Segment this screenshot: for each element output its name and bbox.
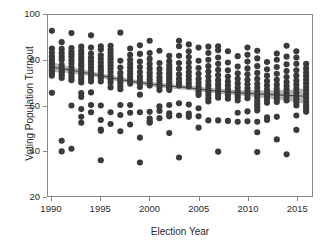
data-point bbox=[117, 86, 123, 92]
data-point bbox=[98, 128, 104, 134]
data-point bbox=[196, 92, 202, 98]
data-point bbox=[215, 47, 221, 53]
data-point bbox=[215, 95, 221, 101]
data-point bbox=[117, 128, 123, 134]
data-point bbox=[215, 117, 221, 123]
data-point bbox=[244, 71, 250, 77]
data-point bbox=[205, 50, 211, 56]
data-point bbox=[147, 38, 153, 44]
data-point bbox=[215, 61, 221, 67]
data-point bbox=[254, 48, 260, 54]
data-point bbox=[215, 149, 221, 155]
data-point bbox=[205, 98, 211, 104]
data-point bbox=[225, 96, 231, 102]
data-point bbox=[274, 50, 280, 56]
data-point bbox=[196, 125, 202, 131]
data-point bbox=[49, 73, 55, 79]
data-point bbox=[78, 120, 84, 126]
plot-area bbox=[47, 14, 313, 197]
data-point bbox=[274, 57, 280, 63]
data-point bbox=[68, 30, 74, 36]
data-point bbox=[274, 64, 280, 70]
data-point bbox=[127, 45, 133, 51]
data-point bbox=[166, 130, 172, 136]
data-point bbox=[156, 48, 162, 54]
x-tick-mark bbox=[149, 197, 150, 201]
data-point bbox=[156, 60, 162, 66]
data-point bbox=[137, 51, 143, 57]
data-point bbox=[225, 67, 231, 73]
data-point bbox=[166, 53, 172, 59]
data-point bbox=[49, 90, 55, 96]
data-point bbox=[176, 66, 182, 72]
data-point bbox=[284, 151, 290, 157]
data-point bbox=[127, 102, 133, 108]
data-point bbox=[205, 117, 211, 123]
data-point bbox=[59, 138, 65, 144]
data-point bbox=[274, 99, 280, 105]
data-point bbox=[186, 102, 192, 108]
data-point bbox=[293, 127, 299, 133]
data-point bbox=[68, 146, 74, 152]
data-point bbox=[254, 107, 260, 113]
x-tick-label: 2010 bbox=[237, 204, 258, 214]
data-point bbox=[98, 78, 104, 84]
data-point bbox=[59, 75, 65, 81]
x-axis-title: Election Year bbox=[47, 226, 313, 237]
data-point bbox=[107, 121, 113, 127]
data-point bbox=[117, 102, 123, 108]
data-point bbox=[196, 105, 202, 111]
plot-canvas bbox=[48, 15, 312, 196]
data-point bbox=[147, 83, 153, 89]
data-point bbox=[176, 43, 182, 49]
data-point bbox=[293, 48, 299, 54]
data-point bbox=[127, 121, 133, 127]
data-point bbox=[156, 108, 162, 114]
data-point bbox=[137, 135, 143, 141]
data-point bbox=[225, 48, 231, 54]
y-axis-title: Voting Population Turnout bbox=[24, 12, 35, 195]
data-point bbox=[244, 45, 250, 51]
data-point bbox=[244, 95, 250, 101]
data-point bbox=[244, 52, 250, 58]
data-point bbox=[284, 54, 290, 60]
x-tick-label: 2015 bbox=[287, 204, 308, 214]
x-tick-label: 2000 bbox=[139, 204, 160, 214]
data-point bbox=[293, 54, 299, 60]
data-point bbox=[68, 77, 74, 83]
data-point bbox=[78, 114, 84, 120]
data-point bbox=[254, 149, 260, 155]
data-point bbox=[98, 46, 104, 52]
data-point bbox=[176, 53, 182, 59]
data-point bbox=[137, 84, 143, 90]
data-point bbox=[137, 109, 143, 115]
data-point bbox=[293, 112, 299, 118]
data-point bbox=[107, 84, 113, 90]
data-point bbox=[244, 59, 250, 65]
data-point bbox=[166, 102, 172, 108]
x-tick-mark bbox=[100, 197, 101, 201]
data-point bbox=[264, 117, 270, 123]
data-point bbox=[176, 100, 182, 106]
data-point bbox=[235, 70, 241, 76]
data-point bbox=[274, 136, 280, 142]
scatter-chart: 20406080100 199019952000200520102015 Ele… bbox=[0, 0, 330, 250]
data-point bbox=[264, 66, 270, 72]
data-point bbox=[196, 113, 202, 119]
data-point bbox=[137, 42, 143, 48]
data-point bbox=[98, 117, 104, 123]
data-point bbox=[244, 118, 250, 124]
data-point bbox=[78, 79, 84, 85]
data-point bbox=[225, 118, 231, 124]
data-point bbox=[274, 71, 280, 77]
data-point bbox=[264, 100, 270, 106]
data-point bbox=[98, 102, 104, 108]
data-point bbox=[196, 65, 202, 71]
data-point bbox=[235, 110, 241, 116]
data-point bbox=[78, 106, 84, 112]
data-point bbox=[244, 65, 250, 71]
data-point bbox=[137, 159, 143, 165]
data-point bbox=[156, 115, 162, 121]
data-point bbox=[186, 114, 192, 120]
data-point bbox=[147, 120, 153, 126]
